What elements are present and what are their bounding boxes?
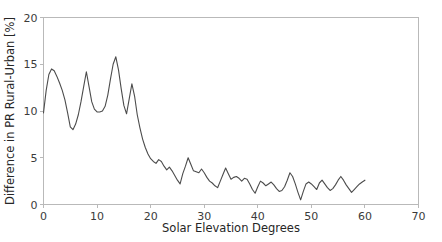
- x-tick-label: 0: [40, 210, 47, 223]
- y-tick-label: 10: [24, 105, 38, 118]
- x-tick-label: 60: [358, 210, 372, 223]
- x-tick-label: 20: [144, 210, 158, 223]
- y-axis-ticks: 05101520: [24, 12, 44, 212]
- x-axis-title: Solar Elevation Degrees: [162, 221, 300, 235]
- plot-frame: [44, 18, 419, 205]
- y-tick-label: 5: [31, 152, 38, 165]
- x-tick-label: 70: [412, 210, 426, 223]
- x-tick-label: 50: [304, 210, 318, 223]
- series-line: [44, 57, 365, 200]
- x-tick-label: 10: [90, 210, 104, 223]
- chart-figure: 010203040506070 05101520 Solar Elevation…: [0, 0, 442, 242]
- line-chart: 010203040506070 05101520 Solar Elevation…: [0, 0, 442, 242]
- y-tick-label: 20: [24, 12, 38, 25]
- data-series-group: [44, 57, 365, 200]
- y-tick-label: 0: [31, 199, 38, 212]
- y-axis-title: Difference in PR Rural-Urban [%]: [3, 17, 17, 205]
- x-axis-ticks: 010203040506070: [40, 205, 426, 223]
- y-tick-label: 15: [24, 58, 38, 71]
